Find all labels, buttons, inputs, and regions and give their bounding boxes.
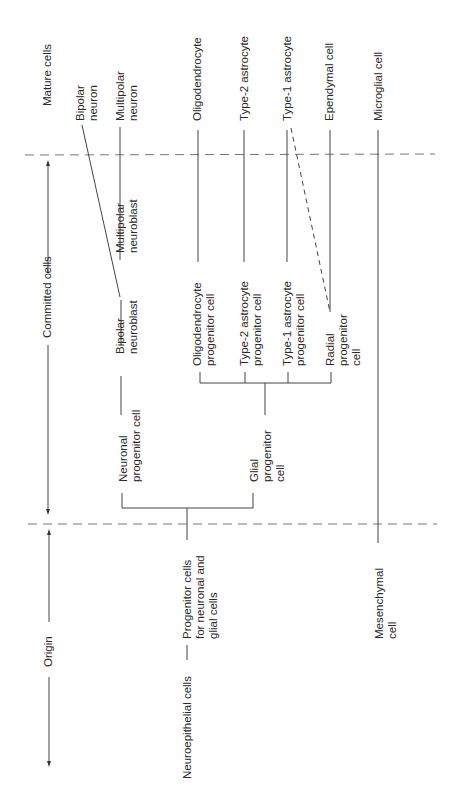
label-neuroepithelial-cells: Neuroepithelial cells bbox=[181, 676, 194, 779]
label-type1-astrocyte: Type-1 astrocyte bbox=[281, 36, 294, 121]
label-oligodendrocyte: Oligodendrocyte bbox=[191, 37, 204, 121]
stage-label-origin: Origin bbox=[42, 636, 55, 667]
label-ependymal-cell: Ependymal cell bbox=[323, 43, 336, 121]
label-multipolar-neuron: Multipolar neuron bbox=[114, 71, 140, 121]
stage-label-committed: Committed cells bbox=[41, 256, 54, 338]
divider-mature-committed bbox=[25, 154, 435, 155]
diagram-lines bbox=[0, 0, 453, 788]
label-mesenchymal-cell: Mesenchymal cell bbox=[373, 568, 399, 639]
label-microglial-cell: Microglial cell bbox=[372, 52, 385, 121]
label-bipolar-neuroblast: Bipolar neuroblast bbox=[114, 300, 140, 354]
label-glial-progenitor: Glial progenitor cell bbox=[248, 430, 287, 482]
label-type2-astrocyte-progenitor: Type-2 astrocyte progenitor cell bbox=[238, 281, 264, 366]
label-progenitor-neuronal-glial: Progenitor cells for neuronal and glial … bbox=[181, 555, 220, 639]
label-radial-progenitor: Radial progenitor cell bbox=[324, 314, 363, 366]
stage-label-mature: Mature cells bbox=[41, 44, 54, 106]
label-type2-astrocyte: Type-2 astrocyte bbox=[238, 36, 251, 121]
label-oligodendrocyte-progenitor: Oligodendrocyte progenitor cell bbox=[191, 282, 217, 366]
label-multipolar-neuroblast: Multipolar neuroblast bbox=[114, 199, 140, 253]
label-type1-astrocyte-progenitor: Type-1 astrocyte progenitor cell bbox=[281, 281, 307, 366]
label-neuronal-progenitor: Neuronal progenitor cell bbox=[117, 410, 143, 482]
label-bipolar-neuron: Bipolar neuron bbox=[74, 85, 100, 121]
